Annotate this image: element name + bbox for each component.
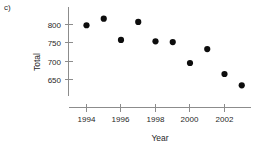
x-tick-label: 2002 <box>216 115 234 124</box>
data-point <box>101 16 107 22</box>
data-point <box>83 22 89 28</box>
x-tick-label: 2000 <box>181 115 199 124</box>
data-point-group <box>83 16 244 89</box>
data-point <box>135 19 141 25</box>
data-point <box>170 39 176 45</box>
y-axis-tick-labels: 800 750 700 650 <box>48 21 62 85</box>
plot-area: 800 750 700 650 1994 1996 1998 2000 2002… <box>0 0 255 147</box>
data-point <box>118 37 124 43</box>
y-tick-label: 650 <box>48 76 62 85</box>
data-point <box>152 38 158 44</box>
data-point <box>204 46 210 52</box>
x-tick-label: 1998 <box>147 115 165 124</box>
data-point <box>187 60 193 66</box>
y-tick-label: 750 <box>48 39 62 48</box>
y-tick-label: 800 <box>48 21 62 30</box>
y-axis-title: Total <box>32 53 42 71</box>
data-point <box>239 82 245 88</box>
x-axis-tick-labels: 1994 1996 1998 2000 2002 <box>78 115 234 124</box>
y-tick-label: 700 <box>48 58 62 67</box>
x-tick-label: 1994 <box>78 115 96 124</box>
data-point <box>221 71 227 77</box>
x-axis-title: Year <box>151 133 168 143</box>
x-tick-label: 1996 <box>112 115 130 124</box>
scatter-plot-figure: c) 800 750 700 650 199 <box>0 0 255 147</box>
